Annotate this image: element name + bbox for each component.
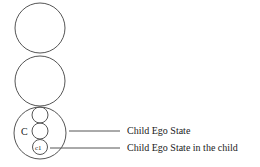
inner-circle-1 xyxy=(32,107,48,123)
label-child-ego-state: Child Ego State xyxy=(127,125,191,136)
ego-state-diagram: C c1 Child Ego State Child Ego State in … xyxy=(0,0,260,167)
middle-circle xyxy=(15,56,65,106)
inner-circle-2 xyxy=(32,123,48,139)
child-label: C xyxy=(21,126,28,137)
top-circle xyxy=(15,3,65,53)
label-child-in-child: Child Ego State in the child xyxy=(127,142,238,153)
c1-label: c1 xyxy=(35,144,42,152)
